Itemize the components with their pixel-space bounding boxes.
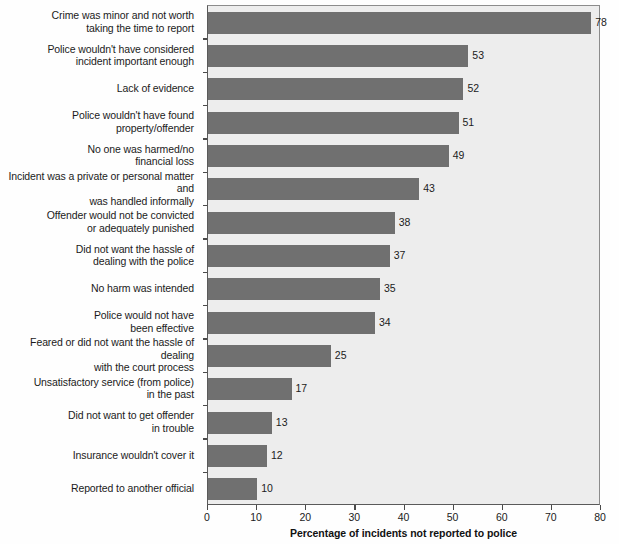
bar-value-label: 25 [335, 344, 347, 366]
value-axis-tick-label: 70 [536, 511, 566, 523]
bar [208, 212, 395, 234]
bar-value-label: 51 [463, 111, 475, 133]
category-label-line: financial loss [135, 155, 194, 167]
bar-value-label: 37 [394, 244, 406, 266]
bar-value-label: 13 [276, 411, 288, 433]
category-label: Feared or did not want the hassle of dea… [0, 338, 200, 371]
bar [208, 312, 375, 334]
value-axis-tick-label: 50 [438, 511, 468, 523]
bar [208, 378, 292, 400]
value-axis-tick-label: 80 [585, 511, 615, 523]
bar-value-label: 78 [595, 11, 607, 33]
category-label: Incident was a private or personal matte… [0, 172, 200, 205]
category-label: Insurance wouldn't cover it [0, 438, 200, 471]
category-label-line: Lack of evidence [117, 82, 194, 94]
category-label-line: Offender would not be convicted [47, 209, 194, 221]
category-label-line: been effective [130, 322, 194, 334]
category-label-line: Reported to another official [71, 482, 194, 494]
category-label-line: in the past [147, 388, 194, 400]
category-label: No one was harmed/nofinancial loss [0, 138, 200, 171]
category-label-line: taking the time to report [86, 22, 194, 34]
category-label: No harm was intended [0, 272, 200, 305]
value-axis-tick-label: 0 [192, 511, 222, 523]
category-label: Crime was minor and not worthtaking the … [0, 5, 200, 38]
category-label-line: property/offender [116, 122, 194, 134]
bar [208, 278, 380, 300]
value-axis: 01020304050607080 Percentage of incident… [207, 505, 600, 544]
bar-value-label: 34 [379, 311, 391, 333]
category-label-line: or adequately punished [87, 222, 194, 234]
value-axis-tick [404, 505, 405, 510]
bar-value-label: 17 [296, 377, 308, 399]
category-label: Lack of evidence [0, 72, 200, 105]
category-label: Did not want to get offenderin trouble [0, 405, 200, 438]
category-label: Reported to another official [0, 472, 200, 505]
value-axis-tick [551, 505, 552, 510]
value-axis-tick [305, 505, 306, 510]
bar [208, 78, 463, 100]
value-axis-tick-label: 20 [290, 511, 320, 523]
category-label-line: Incident was a private or personal matte… [0, 170, 194, 195]
category-label: Police wouldn't have foundproperty/offen… [0, 105, 200, 138]
category-label-line: Feared or did not want the hassle of dea… [0, 336, 194, 361]
bar [208, 345, 331, 367]
bar-value-label: 43 [423, 177, 435, 199]
category-label-line: Did not want the hassle of [76, 243, 194, 255]
value-axis-tick-label: 30 [339, 511, 369, 523]
bar [208, 478, 257, 500]
value-axis-tick-label: 10 [241, 511, 271, 523]
category-label-line: dealing with the police [93, 255, 194, 267]
bar [208, 178, 419, 200]
category-label-line: No harm was intended [91, 282, 194, 294]
value-axis-tick [256, 505, 257, 510]
category-label: Police wouldn't have consideredincident … [0, 38, 200, 71]
category-label: Unsatisfactory service (from police)in t… [0, 372, 200, 405]
category-label-line: in trouble [152, 422, 194, 434]
bar [208, 112, 459, 134]
bar-value-label: 49 [453, 144, 465, 166]
bar-chart: Crime was minor and not worthtaking the … [0, 0, 619, 544]
bar [208, 245, 390, 267]
category-label-line: incident important enough [76, 55, 194, 67]
category-label: Did not want the hassle ofdealing with t… [0, 238, 200, 271]
bar-value-label: 52 [467, 77, 479, 99]
category-label-line: Police wouldn't have found [72, 109, 194, 121]
value-axis-tick [502, 505, 503, 510]
category-axis-labels: Crime was minor and not worthtaking the … [0, 5, 200, 505]
value-axis-tick [453, 505, 454, 510]
bar-value-label: 12 [271, 444, 283, 466]
category-label-line: Unsatisfactory service (from police) [34, 376, 194, 388]
category-label-line: No one was harmed/no [87, 143, 194, 155]
bar [208, 12, 591, 34]
value-axis-tick-label: 60 [487, 511, 517, 523]
category-label: Offender would not be convictedor adequa… [0, 205, 200, 238]
category-label-line: Police wouldn't have considered [47, 43, 194, 55]
category-label-line: Insurance wouldn't cover it [73, 449, 194, 461]
category-label: Police would not havebeen effective [0, 305, 200, 338]
bar-value-label: 53 [472, 44, 484, 66]
value-axis-tick [354, 505, 355, 510]
bar-value-label: 38 [399, 211, 411, 233]
value-axis-tick [207, 505, 208, 510]
category-label-line: Did not want to get offender [68, 409, 194, 421]
bar-value-label: 10 [261, 477, 273, 499]
bar [208, 145, 449, 167]
category-label-line: Police would not have [94, 309, 194, 321]
bar [208, 45, 468, 67]
value-axis-tick [600, 505, 601, 510]
bar [208, 412, 272, 434]
category-label-line: Crime was minor and not worth [52, 9, 194, 21]
bar [208, 445, 267, 467]
value-axis-title: Percentage of incidents not reported to … [207, 527, 600, 539]
value-axis-tick-label: 40 [389, 511, 419, 523]
bar-value-label: 35 [384, 277, 396, 299]
